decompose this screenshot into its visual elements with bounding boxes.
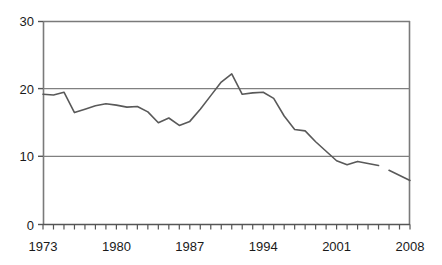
x-tick-marks: [43, 225, 410, 230]
y-tick-label-20: 20: [20, 82, 34, 97]
line-chart: 30 20 10 0 1973 1980 1987 1994 2001 2008: [0, 0, 442, 265]
y-tick-label-0: 0: [27, 218, 34, 233]
y-tick-label-10: 10: [20, 149, 34, 164]
chart-canvas: 30 20 10 0 1973 1980 1987 1994 2001 2008: [0, 0, 442, 265]
x-tick-label-1994: 1994: [249, 239, 278, 254]
x-tick-label-1973: 1973: [29, 239, 58, 254]
x-tick-label-1980: 1980: [102, 239, 131, 254]
data-line-series-1: [43, 74, 379, 166]
x-tick-label-1987: 1987: [175, 239, 204, 254]
data-line-series-1-continued: [389, 170, 410, 180]
x-tick-label-2001: 2001: [322, 239, 351, 254]
y-tick-label-30: 30: [20, 14, 34, 29]
y-tick-marks: [38, 22, 43, 225]
x-tick-label-2008: 2008: [396, 239, 425, 254]
